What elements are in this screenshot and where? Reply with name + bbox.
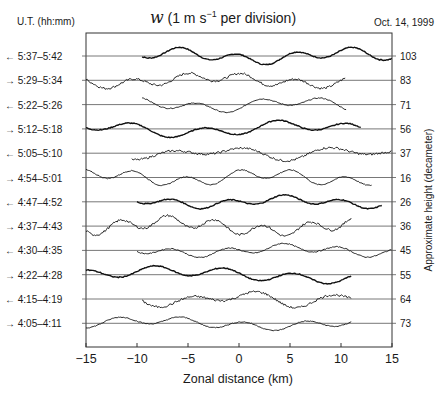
velocity-trace	[86, 317, 351, 331]
velocity-trace	[132, 147, 391, 162]
velocity-trace	[142, 291, 351, 308]
velocity-trace	[142, 98, 346, 113]
trace-baselines	[82, 56, 396, 323]
plot-area	[0, 0, 446, 398]
velocity-trace	[86, 72, 345, 89]
velocity-traces	[86, 47, 392, 331]
velocity-trace	[86, 215, 351, 237]
axis-ticks	[86, 343, 392, 347]
